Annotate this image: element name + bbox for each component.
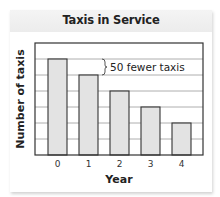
- bar-year-3: [141, 107, 160, 155]
- x-tick-labels: 01234: [55, 159, 185, 169]
- bar-year-0: [48, 59, 67, 155]
- annotation-text: 50 fewer taxis: [110, 61, 185, 73]
- x-axis-label: Year: [105, 173, 132, 186]
- bar-year-2: [110, 91, 129, 155]
- brace-icon: [102, 59, 107, 75]
- plot-area: 01234 50 fewer taxis: [0, 0, 220, 197]
- annotation-brace: 50 fewer taxis: [102, 59, 185, 75]
- x-tick-label: 0: [55, 159, 61, 169]
- bar-year-4: [172, 123, 191, 155]
- x-tick-label: 3: [148, 159, 154, 169]
- y-axis-label: Number of taxis: [14, 49, 27, 148]
- x-tick-label: 1: [86, 159, 92, 169]
- x-tick-label: 2: [117, 159, 123, 169]
- bar-year-1: [79, 75, 98, 155]
- x-tick-label: 4: [179, 159, 185, 169]
